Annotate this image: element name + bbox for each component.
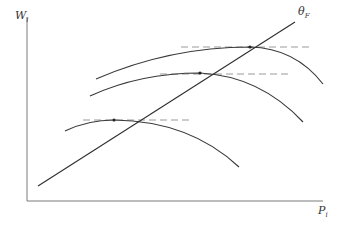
tangency-point-mid bbox=[198, 71, 201, 74]
curve-low bbox=[65, 120, 239, 167]
tangency-point-high bbox=[248, 45, 251, 48]
y-axis-label: Wi bbox=[15, 10, 29, 24]
theta-f-label: θF bbox=[298, 6, 309, 20]
diagram-canvas bbox=[0, 0, 338, 226]
curve-mid bbox=[90, 73, 303, 122]
theta-f-line bbox=[38, 22, 295, 186]
tangency-point-low bbox=[112, 118, 115, 121]
curve-high bbox=[96, 47, 323, 84]
x-axis-label: Pi bbox=[318, 205, 328, 219]
